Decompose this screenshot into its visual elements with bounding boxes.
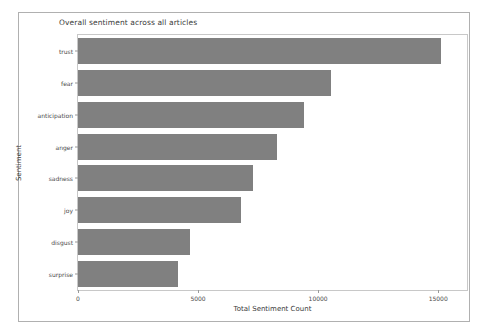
- bar: [78, 70, 331, 96]
- y-axis-label-text: Sentiment: [15, 144, 23, 180]
- bar-series: [78, 35, 467, 290]
- chart-title: Overall sentiment across all articles: [59, 18, 197, 27]
- bar-row: [78, 38, 441, 64]
- bar: [78, 229, 190, 255]
- bar: [78, 134, 277, 160]
- bar-row: [78, 197, 241, 223]
- y-axis-label: Sentiment: [9, 34, 29, 291]
- x-tick-label: 0: [76, 295, 80, 302]
- y-tick-label: anticipation: [38, 111, 78, 118]
- y-tick-label: trust: [59, 47, 78, 54]
- bar-row: [78, 102, 304, 128]
- y-tick-label: anger: [56, 143, 78, 150]
- y-tick-label: joy: [64, 207, 78, 214]
- bar: [78, 165, 253, 191]
- y-tick-label: fear: [61, 79, 78, 86]
- bar-row: [78, 165, 253, 191]
- bar-row: [78, 229, 190, 255]
- x-tick-label: 10000: [309, 295, 328, 302]
- plot-area: trustfearanticipationangersadnessjoydisg…: [77, 34, 468, 291]
- bar-row: [78, 134, 277, 160]
- y-tick-label: disgust: [51, 239, 78, 246]
- bar: [78, 197, 241, 223]
- bar: [78, 261, 178, 287]
- bar-row: [78, 70, 331, 96]
- figure-panel: Overall sentiment across all articles Se…: [18, 12, 470, 322]
- bar: [78, 102, 304, 128]
- bar: [78, 38, 441, 64]
- x-tick-mark: [198, 290, 199, 293]
- x-axis-label: Total Sentiment Count: [77, 305, 468, 313]
- x-tick-mark: [78, 290, 79, 293]
- y-tick-label: sadness: [49, 175, 78, 182]
- x-tick-label: 15000: [429, 295, 448, 302]
- x-tick-label: 5000: [190, 295, 205, 302]
- x-tick-mark: [318, 290, 319, 293]
- bar-row: [78, 261, 178, 287]
- x-tick-mark: [438, 290, 439, 293]
- y-tick-label: surprise: [49, 271, 78, 278]
